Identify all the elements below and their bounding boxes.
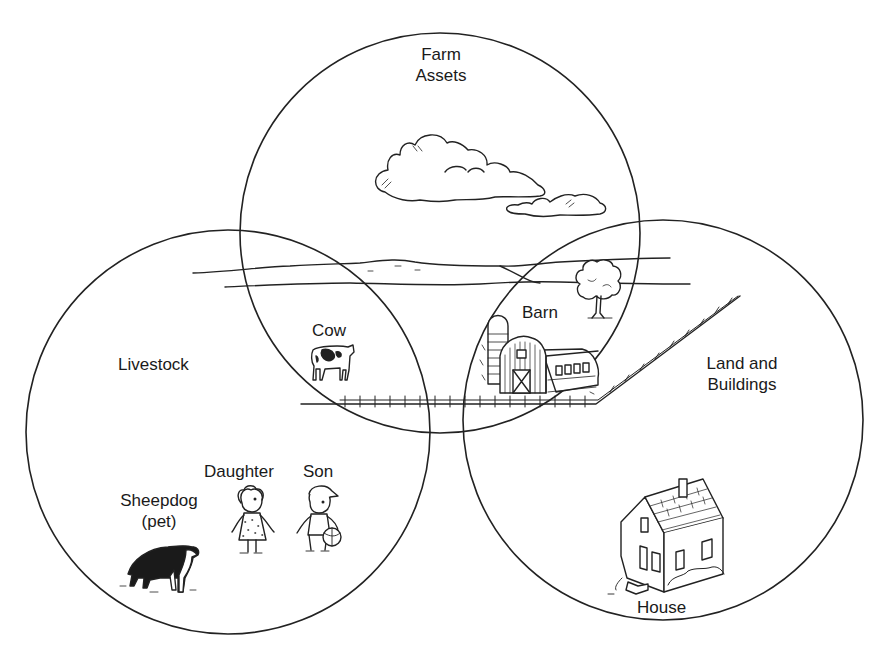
daughter-icon — [232, 486, 274, 553]
venn-diagram: Farm Assets Livestock Land and Buildings… — [0, 0, 887, 660]
house-label: House — [637, 597, 686, 618]
farm-assets-label: Farm Assets — [410, 44, 472, 86]
land-and-buildings-label: Land and Buildings — [692, 353, 792, 395]
sheepdog-label-line2: (pet) — [113, 511, 205, 532]
farm-assets-label-line1: Farm — [410, 44, 472, 65]
tree-icon — [576, 260, 621, 318]
cloud-icon — [376, 135, 545, 202]
cloud-small-icon — [507, 194, 606, 216]
barn-label: Barn — [522, 302, 558, 323]
livestock-circle — [26, 230, 430, 634]
sheepdog-label: Sheepdog (pet) — [113, 490, 205, 532]
daughter-label: Daughter — [204, 461, 274, 482]
son-label-text: Son — [303, 461, 333, 482]
land-label-line2: Buildings — [692, 374, 792, 395]
farm-assets-label-line2: Assets — [410, 65, 472, 86]
cow-icon — [312, 345, 354, 380]
sheepdog-label-line1: Sheepdog — [113, 490, 205, 511]
livestock-label: Livestock — [118, 354, 189, 375]
land-label-line1: Land and — [692, 353, 792, 374]
cow-label: Cow — [312, 320, 346, 341]
barn-label-text: Barn — [522, 302, 558, 323]
house-label-text: House — [637, 597, 686, 618]
house-icon — [608, 479, 724, 594]
sheepdog-icon — [120, 546, 199, 592]
son-icon — [297, 486, 341, 551]
livestock-label-text: Livestock — [118, 354, 189, 375]
cow-label-text: Cow — [312, 320, 346, 341]
son-label: Son — [303, 461, 333, 482]
daughter-label-text: Daughter — [204, 461, 274, 482]
venn-illustration — [0, 0, 887, 660]
